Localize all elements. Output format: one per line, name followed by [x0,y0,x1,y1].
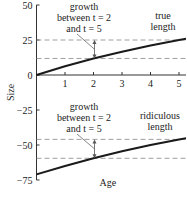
annotation-text: and t = 5 [66,23,101,34]
annotation-text: between t = 2 [57,112,111,123]
y-tick-label: 0 [28,70,33,81]
dashed-guides [37,40,187,158]
series-label: length [151,21,176,32]
annotation-text: and t = 5 [66,123,101,134]
y-axis-label: Size [5,83,16,101]
series-line-true-length [37,38,187,76]
y-tick-label: 50 [23,0,33,11]
y-tick-label: −75 [17,175,33,186]
x-tick-label: 5 [177,78,182,89]
y-tick-label: −50 [17,140,33,151]
annotation-pointer [77,134,95,149]
x-tick-label: 1 [63,78,68,89]
arrow-head-up-icon [93,40,97,44]
series-line-ridiculous-length [37,137,187,175]
x-tick-label: 4 [148,78,153,89]
annotation-text: growth [70,1,98,12]
annotation-text: between t = 2 [57,12,111,23]
annotation-pointer [77,34,95,49]
series-label: length [148,121,173,132]
x-axis-label: Age [99,177,116,188]
series-label: ridiculous [140,110,180,121]
annotation-text: growth [70,101,98,112]
arrow-head-up-icon [93,139,97,143]
x-tick-label: 3 [120,78,125,89]
line-chart: 50250−25−50−7512345 growthbetween t = 2a… [0,0,186,200]
series-label: true [155,10,171,21]
x-tick-label: 2 [91,78,96,89]
y-tick-label: −25 [17,105,33,116]
y-tick-label: 25 [23,35,33,46]
series-lines [37,38,187,175]
